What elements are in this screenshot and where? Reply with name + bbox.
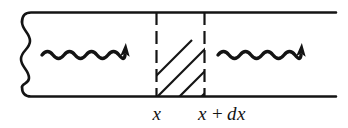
radiation-slab-figure: x x + dx	[0, 0, 348, 128]
incoming-beam-path	[42, 52, 125, 59]
bottom-wall	[22, 87, 336, 97]
label-x-plus-dx-var: x	[197, 103, 207, 124]
label-x: x	[152, 103, 162, 124]
outgoing-beam-path	[218, 52, 301, 59]
label-plus-operator: +	[212, 103, 223, 124]
wavy-broken-edge	[21, 22, 30, 87]
outgoing-wavy-arrow	[218, 52, 301, 59]
label-dx: dx	[227, 103, 246, 124]
top-wall	[22, 13, 336, 23]
incoming-wavy-arrow	[42, 52, 125, 59]
diagram-canvas: x x + dx	[0, 0, 348, 128]
position-labels: x x + dx	[152, 103, 246, 124]
